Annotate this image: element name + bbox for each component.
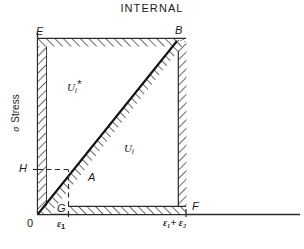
u-i-base: U [124, 142, 132, 154]
y-axis-label: σStress [11, 83, 21, 143]
point-label-F: F [192, 201, 199, 212]
hatch-band-top-EB [38, 38, 186, 47]
hatch-band-left-EG [38, 38, 47, 214]
hatch-band-right-BF [178, 40, 187, 214]
u-i-subscript: i [132, 147, 134, 156]
y-axis-label-text: Stress [10, 94, 21, 122]
point-label-G: G [57, 203, 66, 214]
hatch-band-diagonal [30, 30, 200, 225]
point-label-B: B [175, 25, 182, 36]
point-label-A: A [88, 172, 95, 183]
origin-label: 0 [27, 218, 33, 229]
u-star-superscript: * [77, 78, 81, 90]
sigma-symbol: σ [10, 127, 21, 132]
figure-title: INTERNAL [0, 3, 304, 14]
point-label-H: H [19, 163, 27, 174]
eps1-subscript: 1 [61, 222, 65, 231]
point-label-E: E [36, 26, 43, 37]
stress-strain-diagram [0, 0, 304, 249]
u-star-base: U [67, 81, 75, 93]
loading-line-OB [38, 41, 177, 214]
region-label-u-star: Ui* [67, 79, 81, 95]
x-tick-label-eps1-plus-eps2: ε₁+ ε₂ [163, 218, 186, 228]
region-label-u-i: Ui [124, 143, 134, 156]
x-tick-label-eps1: ε1 [57, 219, 65, 231]
hatch-band-bottom-GF [68, 206, 186, 214]
